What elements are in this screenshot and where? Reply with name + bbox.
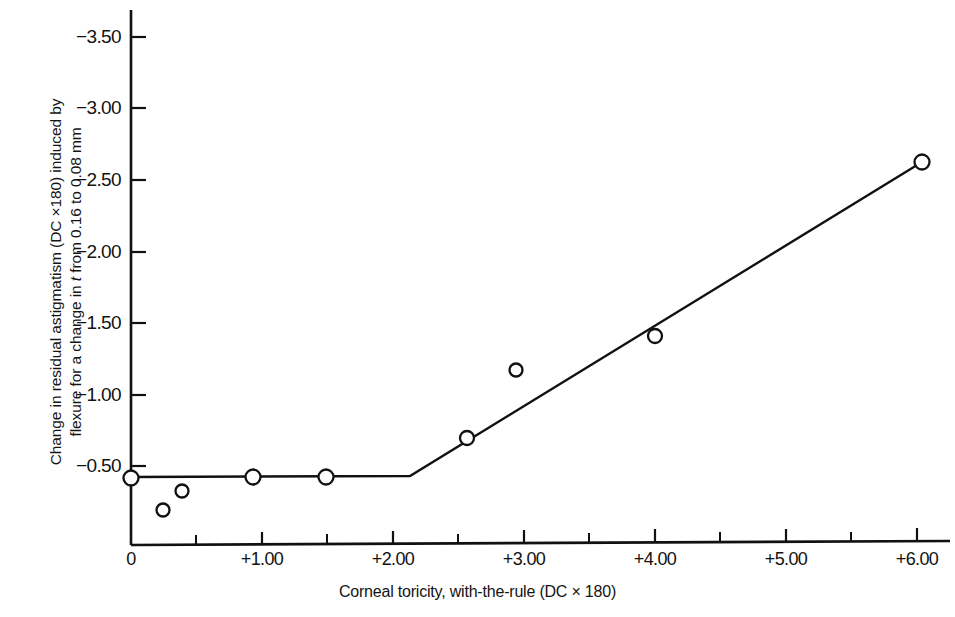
plot-area [0, 0, 955, 617]
fit-line [131, 162, 922, 477]
data-point [246, 470, 261, 485]
data-point [157, 504, 170, 517]
data-point [319, 470, 334, 485]
data-markers [124, 155, 930, 517]
data-point [176, 485, 189, 498]
x-axis-spine [131, 541, 950, 545]
data-point [510, 364, 523, 377]
data-point [460, 431, 474, 445]
data-point [648, 329, 662, 343]
data-point [124, 471, 139, 486]
chart-figure: Change in residual astigmatism (DC ×180)… [0, 0, 955, 617]
y-axis-ticks [131, 37, 146, 466]
data-point [915, 155, 930, 170]
